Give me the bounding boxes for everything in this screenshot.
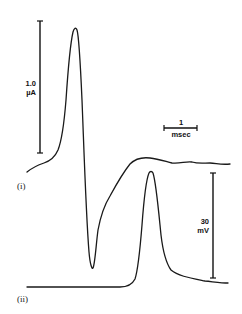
trace-i-label: (i)	[17, 181, 26, 191]
current-scale-bar: 1.0 µA	[26, 21, 43, 153]
trace-ii-label: (ii)	[17, 294, 28, 304]
time-scale-bar: 1 msec	[164, 118, 197, 139]
time-scale-value: 1	[179, 118, 183, 127]
current-scale-unit: µA	[26, 88, 36, 97]
time-scale-unit: msec	[171, 130, 190, 139]
voltage-scale-bar: 30 mV	[197, 173, 216, 278]
figure: 1.0 µA 1 msec 30 mV (i) (ii)	[0, 0, 242, 314]
current-scale-value: 1.0	[26, 79, 36, 88]
voltage-scale-value: 30	[201, 217, 209, 226]
voltage-scale-unit: mV	[197, 226, 209, 235]
